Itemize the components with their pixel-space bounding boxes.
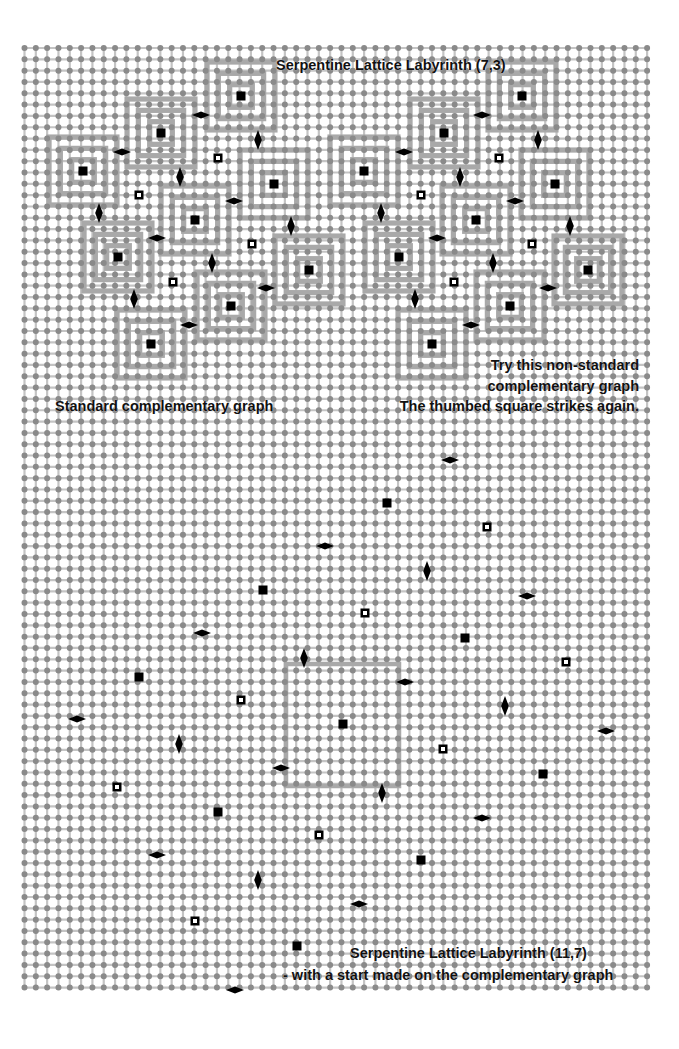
center-square-marker [293,942,302,951]
bottom-subtitle: - with a start made on the complementary… [283,967,613,984]
lattice-labyrinth-diagram [0,0,679,1049]
right-caption-line-2: complementary graph [488,378,640,395]
center-square-marker [518,92,527,101]
vertical-diamond-marker [501,696,509,716]
center-square-marker [237,92,246,101]
center-square-marker [360,167,369,176]
center-square-marker [259,586,268,595]
top-title: Serpentine Lattice Labyrinth (7,3) [276,57,506,74]
left-caption: Standard complementary graph [55,398,273,415]
center-square-marker [135,673,144,682]
center-square-marker [383,499,392,508]
center-square-marker [227,302,236,311]
vertical-diamond-marker [254,130,262,150]
center-square-marker [305,266,314,275]
center-square-marker [270,180,279,189]
center-square-marker [428,340,437,349]
center-square-marker [461,634,470,643]
center-square-marker [395,253,404,262]
center-square-marker [339,720,348,729]
center-square-marker [539,770,548,779]
center-square-marker [440,129,449,138]
center-square-marker [191,216,200,225]
center-square-marker [417,856,426,865]
center-square-marker [551,180,560,189]
bottom-title: Serpentine Lattice Labyrinth (11,7) [350,945,587,962]
center-square-marker [584,266,593,275]
center-square-marker [147,340,156,349]
right-caption-line-3: The thumbed square strikes again. [400,398,639,415]
center-square-marker [214,808,223,817]
vertical-diamond-marker [423,561,431,581]
center-square-marker [472,216,481,225]
center-square-marker [79,167,88,176]
center-square-marker [157,129,166,138]
center-square-marker [114,253,123,262]
center-square-marker [506,302,515,311]
vertical-diamond-marker [534,130,542,150]
right-caption-line-1: Try this non-standard [491,357,639,374]
